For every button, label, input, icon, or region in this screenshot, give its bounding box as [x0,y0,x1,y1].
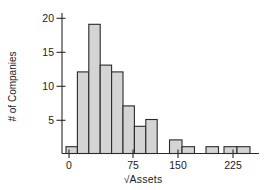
histogram-bar [112,72,123,154]
x-tick-label: 225 [224,159,242,171]
histogram-bar [170,140,183,154]
histogram-bar [182,147,195,154]
y-tick-label: 5 [48,114,54,126]
x-tick-label: 0 [66,159,72,171]
histogram-bar [89,24,100,153]
y-tick-label: 20 [42,12,54,24]
histogram-figure: 5101520075150225 # of Companies √Assets [0,0,264,190]
histogram-bar [224,147,237,154]
x-axis-title: √Assets [63,173,223,185]
histogram-canvas: 5101520075150225 [0,0,264,190]
histogram-bar [134,126,145,153]
histogram-bar [100,65,111,153]
histogram-bar [77,72,88,154]
y-tick-label: 15 [42,46,54,58]
histogram-bar [237,147,250,154]
histogram-bar [146,120,157,154]
histogram-bar [66,147,77,154]
x-tick-label: 75 [127,159,139,171]
x-tick-label: 150 [169,159,187,171]
histogram-bar [123,106,134,154]
histogram-bar [206,147,219,154]
y-axis-title: # of Companies [7,42,20,132]
y-tick-label: 10 [42,80,54,92]
